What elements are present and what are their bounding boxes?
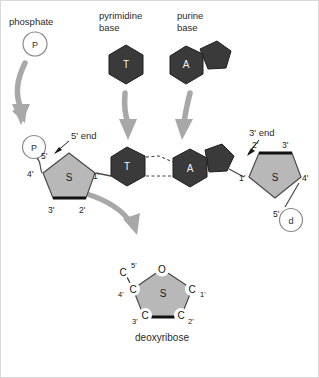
deoxyribose-c3-atom: C <box>141 310 148 321</box>
base-t: T <box>111 147 145 186</box>
label-pyrimidine-base-line2: base <box>99 22 120 33</box>
deoxyribose-c4-prime: 4' <box>118 290 124 299</box>
sugar-right-c5-label: 5' <box>273 209 280 219</box>
nucleotide-left-phosphate-label: P <box>31 143 37 153</box>
deoxyribose-c2-atom: C <box>177 310 184 321</box>
label-pyrimidine-base-line1: pyrimidine <box>99 10 142 21</box>
base-a-letter: A <box>187 163 194 174</box>
sugar-left-c3-label: 3' <box>48 205 55 215</box>
five-prime-end-label: 5' end <box>71 130 97 141</box>
deoxyribose-c4-atom: C <box>129 284 136 295</box>
label-phosphate: phosphate <box>9 16 53 27</box>
deoxyribose-center-label: S <box>160 288 167 299</box>
purine-base-letter: A <box>183 59 190 70</box>
sugar-right: S <box>249 153 301 198</box>
sugar-left-center-label: S <box>66 172 73 183</box>
pyrimidine-base-hexagon: T <box>109 45 143 84</box>
deoxyribose-c3-prime: 3' <box>132 317 138 326</box>
label-purine-base-line1: purine <box>177 10 203 21</box>
arrow-sugar-to-detail <box>87 194 140 235</box>
pyrimidine-base-letter: T <box>123 59 129 70</box>
hydrogen-bonds <box>146 156 173 176</box>
dna-nucleotide-diagram: phosphate pyrimidine base purine base P … <box>0 0 319 378</box>
deoxyribose-caption: deoxyribose <box>135 332 189 343</box>
base-a: A <box>173 144 234 187</box>
sugar-left: S <box>43 153 95 198</box>
sugar-left-c2-label: 2' <box>79 205 86 215</box>
arrow-pyrimidine-down <box>119 93 137 140</box>
deoxyribose-detail: S O C 5' C 4' C 3' C 2' C 1' <box>116 261 206 326</box>
deoxyribose-oxygen-label: O <box>158 264 166 275</box>
sugar-right-c3-label: 3' <box>282 140 289 150</box>
deoxyribose-c2-prime: 2' <box>188 317 194 326</box>
sugar-left-c5-label: 5' <box>41 151 48 161</box>
label-purine-base-line2: base <box>177 22 198 33</box>
deoxyribose-c5-prime: 5' <box>131 261 137 270</box>
deoxyribose-c1-atom: C <box>188 284 195 295</box>
diagram-canvas: phosphate pyrimidine base purine base P … <box>1 1 318 377</box>
nucleotide-right-phosphate: d <box>280 209 303 232</box>
phosphate-circle-top: P <box>23 32 47 56</box>
arrow-purine-down <box>175 93 193 140</box>
sugar-right-c2-label: 2' <box>252 140 259 150</box>
three-prime-end-label: 3' end <box>249 127 275 138</box>
base-t-letter: T <box>124 161 130 172</box>
phosphate-circle-top-label: P <box>32 40 38 50</box>
sugar-right-center-label: S <box>272 172 279 183</box>
deoxyribose-c5-atom: C <box>119 267 126 278</box>
sugar-right-c4-label: 4' <box>302 173 309 183</box>
nucleotide-right-phosphate-label: d <box>288 216 293 226</box>
sugar-right-c1-label: 1' <box>239 173 246 183</box>
sugar-left-c4-label: 4' <box>27 169 34 179</box>
arrow-phosphate-down <box>12 63 30 125</box>
deoxyribose-c1-prime: 1' <box>200 290 206 299</box>
hydrogen-bond-1 <box>146 156 173 162</box>
purine-base-shape: A <box>170 41 231 84</box>
five-prime-end-annotation: 5' end <box>54 130 97 154</box>
